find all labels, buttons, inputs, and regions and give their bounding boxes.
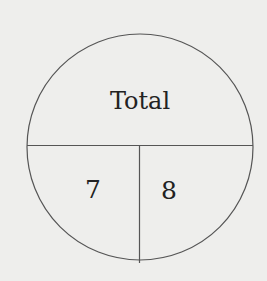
part-right-value: 8	[161, 176, 177, 205]
total-label: Total	[110, 87, 170, 115]
part-left-value: 7	[85, 175, 101, 204]
number-bond-diagram: Total 7 8	[0, 0, 267, 281]
